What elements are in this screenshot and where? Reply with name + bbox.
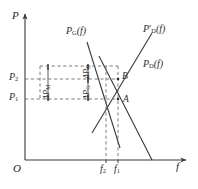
delta-label-pg: ΔPG	[82, 86, 92, 100]
y-tick-p2-sub: 2	[15, 75, 18, 82]
x-tick-f1-sub: 1	[117, 167, 120, 174]
delta-pg-main: ΔP	[81, 90, 91, 100]
point-a-dot	[117, 98, 120, 101]
delta-pm-sub: M	[45, 85, 51, 90]
y-tick-label-p2: P2	[9, 72, 18, 83]
curve-label-pg: PG(f)	[66, 26, 86, 37]
point-label-b: B	[122, 72, 128, 82]
x-tick-label-f1: f1	[114, 164, 120, 175]
x-tick-f2-sub: 2	[103, 167, 106, 174]
curve-label-pd-arg: (f)	[154, 58, 163, 69]
delta-pg-sub: G	[85, 86, 91, 90]
curve-label-pd-prime-arg: (f)	[156, 23, 165, 34]
x-tick-label-f2: f2	[100, 164, 106, 175]
delta-label-pm: ΔPM	[42, 85, 52, 100]
delta-pd-main: ΔP	[81, 69, 91, 79]
delta-pd-sub: D	[85, 65, 91, 69]
delta-pm-main: ΔP	[41, 90, 51, 100]
delta-label-pd: ΔPD	[82, 65, 92, 79]
point-b-dot	[117, 78, 120, 81]
diagram-canvas	[0, 0, 198, 189]
point-label-a: A	[123, 95, 129, 105]
curve-pd-prime	[92, 33, 152, 133]
curve-label-pd-prime: P′D(f)	[143, 24, 165, 35]
origin-label: O	[13, 163, 21, 174]
y-tick-label-p1: P1	[9, 92, 18, 103]
x-axis-label: f	[176, 161, 179, 172]
y-tick-p1-sub: 1	[15, 95, 18, 102]
supply-demand-figure: P f O PG(f) P′D(f) PD(f) B A P2 P1 f2 f1…	[0, 0, 198, 189]
curve-label-pg-arg: (f)	[77, 25, 86, 36]
curve-label-pd: PD(f)	[143, 59, 163, 70]
y-axis-label: P	[12, 10, 19, 21]
